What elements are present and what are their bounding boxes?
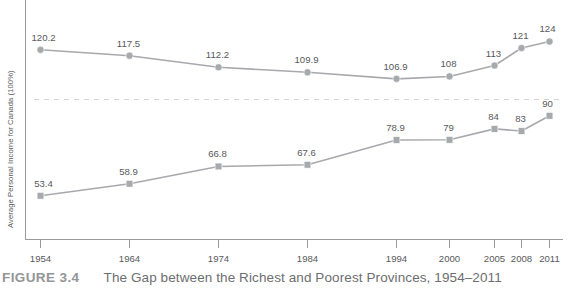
data-point-marker (304, 161, 311, 168)
data-point-label: 108 (440, 58, 456, 69)
data-point-marker (446, 73, 453, 80)
data-point-label: 67.6 (297, 147, 316, 158)
x-axis-tick-labels: 1954 1964 1974 1984 1994 2000 2005 2008 … (30, 253, 560, 264)
data-point-label: 84 (488, 111, 499, 122)
data-point-marker (518, 44, 525, 51)
data-point-marker (491, 62, 498, 69)
x-tick-label-4: 1994 (386, 253, 408, 264)
data-point-marker (215, 163, 222, 170)
data-point-marker (491, 125, 498, 132)
x-tick-label-7: 2008 (511, 253, 532, 264)
point-label-layer: 120.2117.5112.2109.9106.910811312112453.… (31, 23, 556, 188)
data-point-marker (393, 75, 400, 82)
data-point-label: 106.9 (383, 61, 407, 72)
data-point-label: 90 (542, 98, 553, 109)
data-point-label: 83 (515, 113, 526, 124)
x-tick-label-3: 1984 (297, 253, 319, 264)
data-point-marker (126, 52, 133, 59)
data-point-marker (304, 69, 311, 76)
data-point-marker (126, 180, 133, 187)
chart-canvas: Average Personal Income for Canada (100%… (0, 0, 569, 268)
data-point-label: 66.8 (208, 148, 227, 159)
data-point-label: 109.9 (294, 54, 318, 65)
x-tick-label-6: 2005 (484, 253, 505, 264)
figure-caption-text: The Gap between the Richest and Poorest … (104, 270, 502, 285)
data-point-label: 53.4 (34, 178, 53, 189)
data-point-label: 78.9 (386, 122, 405, 133)
figure-caption: FIGURE 3.4 The Gap between the Richest a… (0, 270, 569, 302)
x-tick-label-0: 1954 (30, 253, 52, 264)
data-point-label: 79 (443, 122, 454, 133)
x-tick-label-8: 2011 (539, 253, 560, 264)
data-point-label: 112.2 (206, 49, 229, 60)
data-point-label: 121 (512, 30, 528, 41)
data-point-marker (546, 112, 553, 119)
figure-page: Average Personal Income for Canada (100%… (0, 0, 569, 302)
x-tick-label-1: 1964 (119, 253, 141, 264)
series-line-1 (41, 116, 550, 196)
data-point-marker (37, 192, 44, 199)
y-axis-title: Average Personal Income for Canada (100%… (6, 70, 15, 228)
x-axis-ticks (41, 240, 550, 248)
data-point-marker (215, 64, 222, 71)
data-point-marker (37, 46, 44, 53)
data-point-marker (446, 136, 453, 143)
figure-number: FIGURE 3.4 (0, 270, 80, 285)
data-point-marker (518, 128, 525, 135)
data-point-label: 113 (486, 48, 501, 59)
data-point-label: 124 (539, 23, 556, 34)
x-tick-label-2: 1974 (208, 253, 230, 264)
data-point-label: 117.5 (117, 38, 140, 49)
data-point-marker (393, 137, 400, 144)
data-point-marker (546, 38, 553, 45)
line-chart: Average Personal Income for Canada (100%… (0, 0, 569, 268)
x-tick-label-5: 2000 (439, 253, 460, 264)
data-point-label: 58.9 (119, 166, 138, 177)
data-point-label: 120.2 (31, 32, 55, 43)
